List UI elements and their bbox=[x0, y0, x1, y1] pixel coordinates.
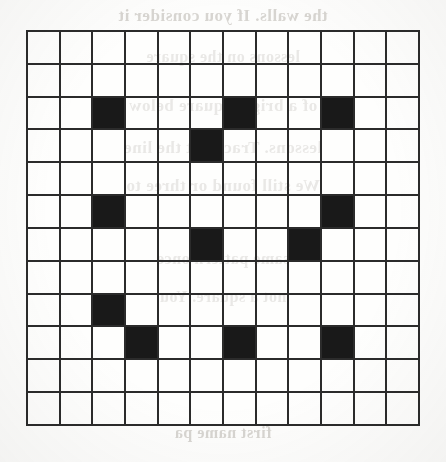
grid-cell-empty[interactable] bbox=[387, 32, 420, 65]
grid-cell-empty[interactable] bbox=[191, 32, 224, 65]
grid-cell-empty[interactable] bbox=[191, 327, 224, 360]
grid-cell-empty[interactable] bbox=[289, 393, 322, 426]
grid-cell-empty[interactable] bbox=[257, 327, 290, 360]
grid-cell-empty[interactable] bbox=[28, 295, 61, 328]
grid-cell-empty[interactable] bbox=[224, 229, 257, 262]
grid-cell-empty[interactable] bbox=[159, 327, 192, 360]
grid-cell-empty[interactable] bbox=[355, 98, 388, 131]
grid-cell-empty[interactable] bbox=[159, 32, 192, 65]
grid-cell-empty[interactable] bbox=[224, 65, 257, 98]
grid-cell-empty[interactable] bbox=[322, 262, 355, 295]
grid-cell-empty[interactable] bbox=[93, 360, 126, 393]
grid-cell-empty[interactable] bbox=[191, 98, 224, 131]
grid-cell-empty[interactable] bbox=[159, 393, 192, 426]
grid-cell-empty[interactable] bbox=[61, 360, 94, 393]
grid-cell-empty[interactable] bbox=[126, 163, 159, 196]
grid-cell-empty[interactable] bbox=[93, 32, 126, 65]
grid-cell-empty[interactable] bbox=[257, 65, 290, 98]
grid-cell-empty[interactable] bbox=[387, 360, 420, 393]
grid-cell-empty[interactable] bbox=[224, 360, 257, 393]
grid-cell-empty[interactable] bbox=[61, 262, 94, 295]
grid-cell-empty[interactable] bbox=[61, 229, 94, 262]
grid-cell-empty[interactable] bbox=[159, 196, 192, 229]
grid-cell-empty[interactable] bbox=[28, 262, 61, 295]
grid-cell-empty[interactable] bbox=[355, 295, 388, 328]
grid-cell-empty[interactable] bbox=[159, 295, 192, 328]
grid-cell-empty[interactable] bbox=[387, 98, 420, 131]
grid-cell-empty[interactable] bbox=[322, 65, 355, 98]
grid-cell-empty[interactable] bbox=[126, 65, 159, 98]
grid-cell-empty[interactable] bbox=[61, 196, 94, 229]
grid-cell-empty[interactable] bbox=[322, 393, 355, 426]
grid-cell-empty[interactable] bbox=[224, 32, 257, 65]
grid-cell-empty[interactable] bbox=[61, 98, 94, 131]
grid-cell-empty[interactable] bbox=[159, 262, 192, 295]
grid-cell-empty[interactable] bbox=[257, 98, 290, 131]
grid-cell-filled[interactable] bbox=[93, 295, 126, 328]
grid-cell-empty[interactable] bbox=[28, 163, 61, 196]
grid-cell-empty[interactable] bbox=[61, 32, 94, 65]
grid-cell-filled[interactable] bbox=[322, 196, 355, 229]
grid-cell-empty[interactable] bbox=[257, 130, 290, 163]
grid-cell-filled[interactable] bbox=[93, 196, 126, 229]
grid-cell-empty[interactable] bbox=[355, 262, 388, 295]
grid-cell-empty[interactable] bbox=[387, 295, 420, 328]
grid-cell-empty[interactable] bbox=[126, 393, 159, 426]
grid-cell-empty[interactable] bbox=[289, 327, 322, 360]
grid-cell-empty[interactable] bbox=[355, 229, 388, 262]
grid-cell-empty[interactable] bbox=[28, 98, 61, 131]
grid-cell-empty[interactable] bbox=[289, 196, 322, 229]
grid-cell-empty[interactable] bbox=[322, 229, 355, 262]
grid-cell-empty[interactable] bbox=[387, 65, 420, 98]
grid-cell-empty[interactable] bbox=[126, 32, 159, 65]
grid-cell-empty[interactable] bbox=[355, 32, 388, 65]
grid-cell-empty[interactable] bbox=[61, 327, 94, 360]
grid-cell-empty[interactable] bbox=[191, 295, 224, 328]
grid-cell-filled[interactable] bbox=[126, 327, 159, 360]
grid-cell-empty[interactable] bbox=[191, 262, 224, 295]
grid-cell-empty[interactable] bbox=[159, 163, 192, 196]
grid-cell-empty[interactable] bbox=[224, 163, 257, 196]
grid-cell-filled[interactable] bbox=[93, 98, 126, 131]
grid-cell-empty[interactable] bbox=[355, 130, 388, 163]
grid-cell-empty[interactable] bbox=[93, 262, 126, 295]
grid-cell-empty[interactable] bbox=[387, 130, 420, 163]
grid-cell-empty[interactable] bbox=[93, 229, 126, 262]
grid-cell-empty[interactable] bbox=[191, 65, 224, 98]
grid-cell-empty[interactable] bbox=[322, 32, 355, 65]
grid-cell-empty[interactable] bbox=[224, 295, 257, 328]
grid-cell-empty[interactable] bbox=[387, 163, 420, 196]
grid-cell-filled[interactable] bbox=[289, 229, 322, 262]
grid-cell-empty[interactable] bbox=[93, 327, 126, 360]
grid-cell-empty[interactable] bbox=[61, 65, 94, 98]
grid-cell-empty[interactable] bbox=[355, 65, 388, 98]
grid-cell-filled[interactable] bbox=[191, 229, 224, 262]
grid-cell-empty[interactable] bbox=[289, 98, 322, 131]
grid-cell-empty[interactable] bbox=[387, 196, 420, 229]
grid-cell-empty[interactable] bbox=[355, 393, 388, 426]
grid-cell-empty[interactable] bbox=[191, 196, 224, 229]
grid-cell-empty[interactable] bbox=[289, 65, 322, 98]
grid-cell-empty[interactable] bbox=[126, 130, 159, 163]
grid-cell-empty[interactable] bbox=[224, 196, 257, 229]
grid-cell-empty[interactable] bbox=[159, 130, 192, 163]
grid-cell-empty[interactable] bbox=[126, 229, 159, 262]
grid-cell-empty[interactable] bbox=[289, 130, 322, 163]
grid-cell-empty[interactable] bbox=[224, 262, 257, 295]
grid-cell-empty[interactable] bbox=[289, 295, 322, 328]
grid-cell-empty[interactable] bbox=[61, 163, 94, 196]
grid-cell-empty[interactable] bbox=[61, 295, 94, 328]
grid-cell-empty[interactable] bbox=[159, 229, 192, 262]
grid-cell-empty[interactable] bbox=[257, 262, 290, 295]
grid-cell-empty[interactable] bbox=[387, 327, 420, 360]
grid-cell-filled[interactable] bbox=[224, 98, 257, 131]
grid-cell-empty[interactable] bbox=[61, 393, 94, 426]
grid-cell-empty[interactable] bbox=[93, 393, 126, 426]
grid-cell-filled[interactable] bbox=[224, 327, 257, 360]
grid-cell-empty[interactable] bbox=[93, 163, 126, 196]
grid-cell-empty[interactable] bbox=[224, 130, 257, 163]
grid-cell-empty[interactable] bbox=[126, 360, 159, 393]
grid-cell-empty[interactable] bbox=[191, 393, 224, 426]
grid-cell-filled[interactable] bbox=[322, 327, 355, 360]
puzzle-grid[interactable] bbox=[26, 30, 420, 426]
